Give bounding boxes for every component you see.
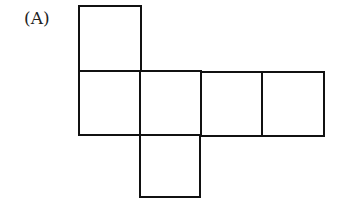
net-square-row-3 — [201, 72, 262, 136]
net-square-row-1 — [79, 71, 140, 135]
net-square-top — [79, 6, 141, 71]
net-square-row-2 — [140, 71, 201, 135]
net-square-bottom — [140, 135, 200, 197]
cube-net-diagram — [0, 0, 337, 198]
net-square-row-4 — [262, 72, 324, 136]
